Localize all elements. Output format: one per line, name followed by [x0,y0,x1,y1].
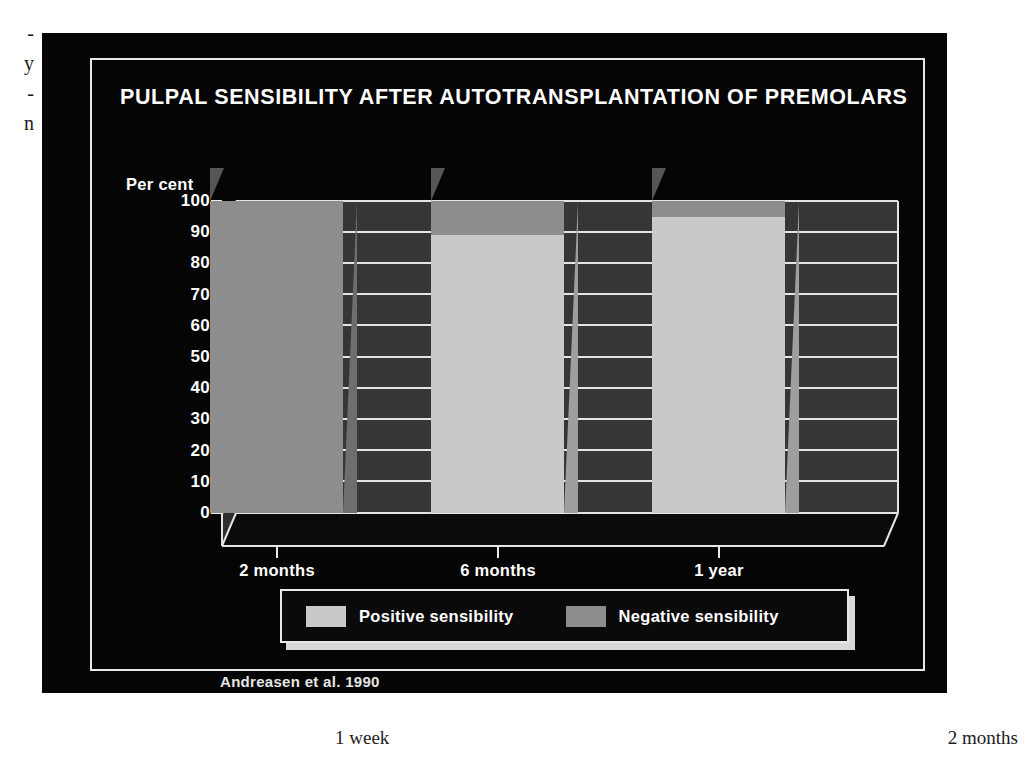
source-note: Andreasen et al. 1990 [220,673,380,690]
chart-title: PULPAL SENSIBILITY AFTER AUTOTRANSPLANTA… [120,85,940,110]
y-tick-label: 30 [150,409,210,429]
y-tick-label: 0 [150,503,210,523]
x-tick-mark [276,546,278,558]
legend-swatch-icon [566,606,606,627]
margin-cropped-text: - y - n [0,18,34,138]
bar-segment-negative [431,201,564,235]
chart-slide: PULPAL SENSIBILITY AFTER AUTOTRANSPLANTA… [42,33,947,693]
y-tick-label: 50 [150,347,210,367]
bar-segment-positive [431,235,564,513]
margin-line-3: n [0,108,34,138]
x-axis-label: 2 months [239,561,315,580]
y-tick-label: 70 [150,285,210,305]
bar-column[interactable] [431,201,564,513]
bar-segment-negative [652,201,785,217]
plot-area: 100 90 80 70 60 50 40 30 20 10 0 [126,201,916,546]
bar-top-face [652,168,666,201]
bar-front-face [431,201,564,513]
caption-right: 2 months [948,727,1018,749]
chart-legend: Positive sensibility Negative sensibilit… [280,589,849,643]
bar-top-face [210,168,224,201]
bar-side-face [564,201,578,513]
bar-column[interactable] [210,201,343,513]
legend-label: Negative sensibility [619,607,779,626]
margin-line-0: - [0,18,34,48]
bar-front-face [210,201,343,513]
y-tick-label: 20 [150,441,210,461]
y-tick-label: 40 [150,378,210,398]
bar-column[interactable] [652,201,785,513]
x-tick-mark [718,546,720,558]
caption-left: 1 week [335,727,389,749]
y-tick-label: 80 [150,253,210,273]
margin-line-1: y [0,48,34,78]
bar-segment-positive [652,217,785,513]
x-axis-label: 6 months [460,561,536,580]
y-tick-label: 10 [150,472,210,492]
legend-label: Positive sensibility [359,607,514,626]
y-tick-label: 100 [150,191,210,211]
margin-line-2: - [0,78,34,108]
legend-swatch-icon [306,606,346,627]
bar-side-face [343,201,357,513]
y-tick-label: 90 [150,222,210,242]
y-tick-label: 60 [150,316,210,336]
bar-front-face [652,201,785,513]
x-axis-label: 1 year [694,561,744,580]
bar-side-face [785,201,799,513]
legend-item-positive[interactable]: Positive sensibility [306,606,514,627]
legend-item-negative[interactable]: Negative sensibility [566,606,779,627]
x-tick-mark [497,546,499,558]
bar-top-face [431,168,445,201]
bar-segment-negative [210,201,343,513]
